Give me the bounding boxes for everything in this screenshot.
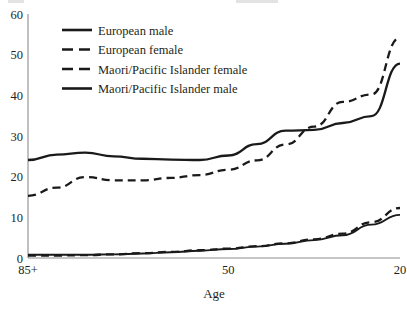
series-line-maori-pacific-islander-female xyxy=(28,208,400,256)
line-chart: 0102030405060 85+5020 Age European maleE… xyxy=(0,0,407,310)
legend-label-0: European male xyxy=(98,24,174,38)
y-tick-label: 40 xyxy=(11,89,24,103)
legend-label-2: Maori/Pacific Islander female xyxy=(98,63,248,77)
x-tick-label: 85+ xyxy=(18,263,38,277)
x-tick-label: 50 xyxy=(222,263,235,277)
y-tick-label: 30 xyxy=(11,130,24,144)
y-tick-label: 60 xyxy=(11,8,24,22)
chart-container: 0102030405060 85+5020 Age European maleE… xyxy=(0,0,407,310)
series-line-european-female xyxy=(28,38,400,196)
x-axis-title: Age xyxy=(203,286,225,301)
y-axis-tick-labels: 0102030405060 xyxy=(11,8,24,266)
legend-label-1: European female xyxy=(98,43,183,57)
y-tick-label: 20 xyxy=(11,170,24,184)
chart-legend: European maleEuropean femaleMaori/Pacifi… xyxy=(62,24,248,97)
x-tick-label: 20 xyxy=(394,263,407,277)
series-line-european-male xyxy=(28,64,400,160)
y-tick-label: 10 xyxy=(11,211,24,225)
x-axis-tick-labels: 85+5020 xyxy=(18,263,406,277)
y-tick-label: 50 xyxy=(11,48,24,62)
legend-label-3: Maori/Pacific Islander male xyxy=(98,82,238,96)
